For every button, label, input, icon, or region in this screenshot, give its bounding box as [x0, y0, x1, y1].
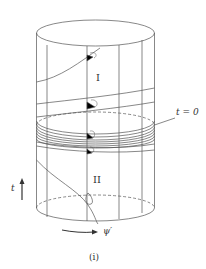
top-ellipse: [37, 20, 155, 46]
slice-arc: [37, 102, 155, 117]
region-II-label: II: [93, 175, 101, 185]
worldline-lower: [37, 160, 99, 224]
t0-back-arc: [37, 112, 155, 125]
slice-arc: [37, 146, 155, 152]
figure-caption: (i): [89, 253, 99, 262]
slice-arc: [37, 121, 155, 134]
t0-label: t = 0: [176, 108, 199, 117]
wedge-marker: [87, 102, 95, 109]
bottom-back-arc: [37, 195, 155, 208]
psi-axis-arrow: [62, 230, 94, 232]
wedge-marker: [87, 55, 93, 61]
slice-arc: [37, 88, 155, 104]
t-axis-label: t: [11, 184, 15, 193]
psi-axis-label: ψ′: [103, 227, 112, 236]
t0-pointer: [155, 118, 176, 125]
region-I-label: I: [96, 73, 100, 83]
